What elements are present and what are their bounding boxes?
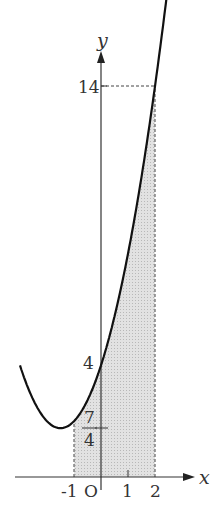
y-tick-label-4: 4 xyxy=(83,353,94,373)
x-tick-label-2: 2 xyxy=(150,481,161,501)
x-axis-label: x xyxy=(199,466,210,488)
x-tick-label-1: 1 xyxy=(122,481,133,501)
fraction-numerator: 7 xyxy=(84,407,95,427)
x-tick-label-minus1: -1 xyxy=(61,481,78,501)
y-tick-label-14: 14 xyxy=(78,77,100,97)
fraction-denominator: 4 xyxy=(84,430,95,450)
x-axis-arrow-icon xyxy=(183,473,195,481)
origin-label: O xyxy=(84,481,98,501)
y-axis-arrow-icon xyxy=(97,51,105,63)
function-graph: y x 14 4 7 4 -1 O 1 2 xyxy=(0,0,215,527)
y-axis-label: y xyxy=(96,29,108,51)
